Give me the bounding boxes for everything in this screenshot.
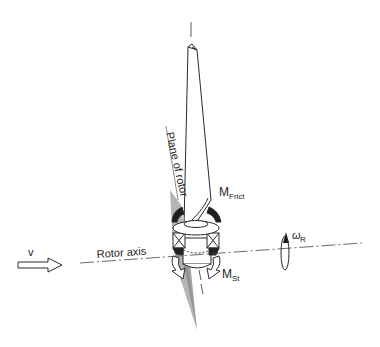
friction-moment-subscript: Frict xyxy=(229,192,245,201)
friction-moment-symbol: M xyxy=(219,185,229,199)
rotor-blade-diagram: v Rotor axis Plane of rotor M Frict M St… xyxy=(0,0,380,347)
wind-velocity-arrow xyxy=(18,258,62,272)
wind-velocity-label: v xyxy=(28,246,34,258)
friction-moment-label: M Frict xyxy=(219,185,245,201)
rotor-speed-label: ω R xyxy=(292,229,306,244)
rotor-axis-label: Rotor axis xyxy=(96,245,147,260)
rotor-speed-subscript: R xyxy=(300,235,306,244)
rotor-blade xyxy=(184,44,211,226)
steering-moment-subscript: St xyxy=(232,274,240,283)
steering-moment-label: M St xyxy=(222,267,240,283)
steering-moment-symbol: M xyxy=(222,267,232,281)
rotor-rotation-symbol xyxy=(281,232,289,270)
